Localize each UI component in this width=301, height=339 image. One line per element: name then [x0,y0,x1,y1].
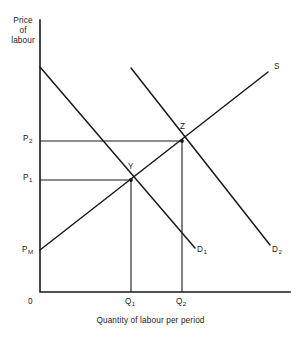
quantity-label-q1-sub: 1 [132,300,136,307]
price-label-p1-sub: 1 [29,176,33,183]
price-label-pm-text: P [22,245,28,254]
y-axis-title-line1: Price [13,16,32,25]
price-label-p2-sub: 2 [29,137,33,144]
quantity-label-q2-text: Q [176,297,183,306]
curve-label-s: S [274,62,280,72]
point-label-y: Y [128,162,134,172]
supply-curve-s [40,72,268,250]
point-y-marker [129,178,133,182]
price-label-p1-text: P [23,173,29,182]
axes [40,20,290,292]
price-label-pm-sub: M [28,248,33,255]
diagram-canvas [0,0,301,339]
curve-label-d2-sub: 2 [278,248,282,255]
curve-label-d1: D1 [197,245,207,255]
x-axis-title: Quantity of labour per period [0,316,301,326]
quantity-label-q1-text: Q [125,297,132,306]
point-z-marker [180,139,184,143]
curve-label-d2: D2 [272,245,282,255]
point-label-z: Z [180,122,185,132]
price-label-p2-text: P [23,134,29,143]
origin-label: 0 [28,297,33,307]
quantity-label-q2-sub: 2 [183,300,187,307]
demand-curve-d2 [131,68,270,245]
quantity-label-q2: Q2 [176,297,186,307]
curve-label-s-text: S [274,62,280,71]
curve-label-d1-sub: 1 [203,248,207,255]
supply-demand-figure: Price of labour Quantity of labour per p… [0,0,301,339]
quantity-label-q1: Q1 [125,297,135,307]
price-label-p2: P2 [23,134,32,144]
demand-curve-d1 [40,67,195,248]
price-label-pm: PM [22,245,33,255]
price-label-p1: P1 [23,173,32,183]
y-axis-title: Price of labour [8,16,38,47]
y-axis-title-line2: of [19,26,26,35]
y-axis-title-line3: labour [11,36,35,45]
